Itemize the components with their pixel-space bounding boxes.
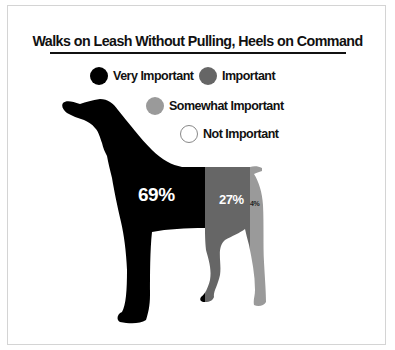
important-band	[205, 0, 250, 350]
data-label-somewhat-important: 4%	[250, 200, 259, 207]
very-important-band	[0, 0, 205, 350]
dog-silhouette-icon	[0, 0, 395, 350]
data-label-important: 27%	[219, 192, 244, 207]
somewhat-important-band	[250, 0, 280, 350]
data-label-very-important: 69%	[138, 184, 175, 206]
